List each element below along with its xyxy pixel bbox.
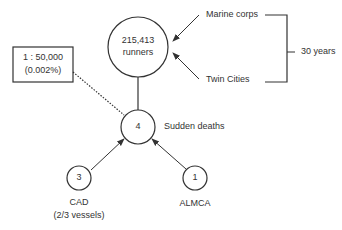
deaths-count: 4 xyxy=(128,121,148,132)
ratio-dotted-connector xyxy=(73,72,124,115)
cad-arrow-icon xyxy=(91,139,124,170)
source-twin-cities: Twin Cities xyxy=(206,74,250,85)
almca-count: 1 xyxy=(185,172,205,183)
duration-bracket xyxy=(265,15,295,82)
almca-arrow-icon xyxy=(152,139,186,169)
cad-count: 3 xyxy=(69,172,89,183)
twin-cities-arrow-icon xyxy=(173,53,199,79)
ratio-line-2: (0.002%) xyxy=(13,65,73,76)
diagram-canvas xyxy=(0,0,342,230)
cad-label: CAD xyxy=(49,197,109,208)
almca-label: ALMCA xyxy=(165,198,225,209)
population-count: 215,413 xyxy=(108,35,168,46)
source-marine-corps: Marine corps xyxy=(206,9,258,20)
population-unit: runners xyxy=(108,47,168,58)
deaths-label: Sudden deaths xyxy=(164,121,225,132)
ratio-line-1: 1 : 50,000 xyxy=(13,52,73,63)
marine-corps-arrow-icon xyxy=(173,15,199,41)
duration-label: 30 years xyxy=(301,46,336,57)
cad-sublabel: (2/3 vessels) xyxy=(44,210,114,221)
